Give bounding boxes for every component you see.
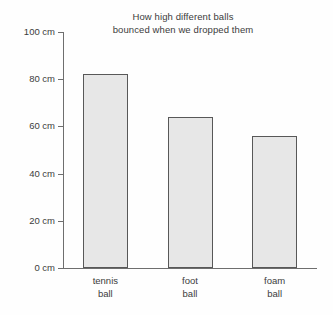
x-tick-label-tennis-ball: tennis ball	[63, 275, 148, 300]
y-tick-label: 20 cm	[29, 215, 55, 226]
y-tick-mark	[58, 174, 63, 175]
plot-area: 0 cm 20 cm 40 cm 60 cm 80 cm 100 cm tenn…	[63, 32, 317, 268]
y-tick-label: 100 cm	[24, 26, 55, 37]
bar-foam-ball	[252, 136, 297, 268]
y-tick-label: 80 cm	[29, 73, 55, 84]
bar-foot-ball	[168, 117, 213, 268]
x-tick-label-foam-ball: foam ball	[232, 275, 317, 300]
y-tick-mark	[58, 268, 63, 269]
bar-chart: How high different balls bounced when we…	[0, 0, 333, 315]
y-tick-mark	[58, 79, 63, 80]
y-tick-mark	[58, 32, 63, 33]
x-axis-line	[63, 268, 317, 269]
bar-tennis-ball	[83, 74, 128, 268]
y-tick-mark	[58, 221, 63, 222]
x-tick-label-foot-ball: foot ball	[148, 275, 233, 300]
y-tick-label: 40 cm	[29, 168, 55, 179]
y-tick-mark	[58, 126, 63, 127]
y-tick-label: 0 cm	[34, 262, 55, 273]
y-axis-line	[63, 32, 64, 268]
y-tick-label: 60 cm	[29, 120, 55, 131]
